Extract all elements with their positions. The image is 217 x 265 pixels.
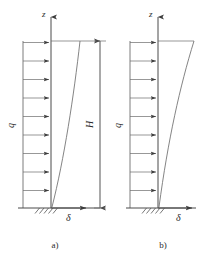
- panel-a-caption: a): [52, 240, 59, 250]
- height-dimension-label: H: [84, 120, 95, 129]
- panel-b-load-label: q: [112, 123, 123, 128]
- panel-b-caption: b): [159, 240, 167, 250]
- panel-b-delta-axis-label: δ: [176, 212, 181, 223]
- panel-b-load-arrows: [130, 43, 156, 191]
- height-dimension: [94, 41, 106, 208]
- panel-b-fixed-support-hatching: [142, 208, 165, 214]
- panel-a-delta-axis-label: δ: [66, 212, 71, 223]
- panel-a-fixed-support-hatching: [35, 208, 58, 214]
- engineering-diagram: z q: [0, 0, 217, 265]
- panel-a-load-label: q: [5, 123, 16, 128]
- panel-b-deflection-curve: [159, 41, 194, 207]
- panel-b: z q: [112, 9, 196, 250]
- panel-a-load-arrows: [23, 43, 49, 191]
- panel-a-z-axis-label: z: [41, 9, 46, 19]
- panel-b-z-axis-label: z: [148, 9, 153, 19]
- figure-container: z q: [0, 0, 217, 265]
- panel-a: z q: [5, 9, 100, 250]
- panel-a-deflection-curve: [52, 41, 80, 207]
